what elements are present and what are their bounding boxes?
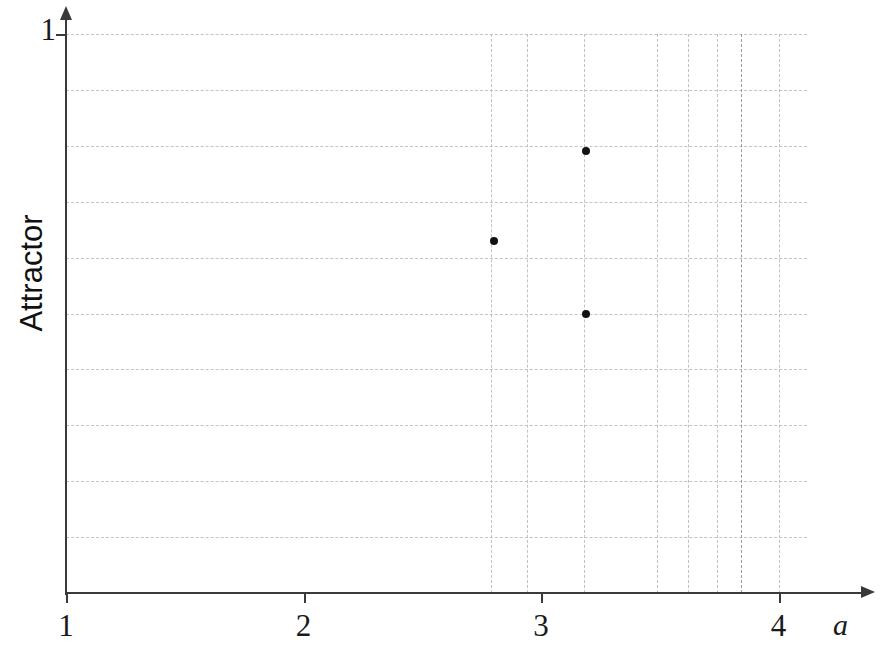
x-axis-tick xyxy=(541,592,543,603)
x-axis-tick-label: 4 xyxy=(749,608,809,644)
y-axis-arrowhead xyxy=(60,6,72,20)
gridline-horizontal xyxy=(66,34,807,35)
x-axis-arrowhead xyxy=(861,586,875,598)
gridline-horizontal xyxy=(66,537,807,538)
x-axis-tick xyxy=(304,592,306,603)
data-point xyxy=(582,310,590,318)
gridline-horizontal xyxy=(66,146,807,147)
gridline-vertical xyxy=(717,34,718,593)
x-axis-tick-label: 2 xyxy=(274,608,334,644)
plot-area xyxy=(66,34,807,593)
x-axis-line xyxy=(65,592,865,594)
gridline-vertical xyxy=(741,34,742,593)
gridline-horizontal xyxy=(66,481,807,482)
gridline-vertical xyxy=(688,34,689,593)
gridline-horizontal xyxy=(66,369,807,370)
x-axis-tick-label: 3 xyxy=(511,608,571,644)
data-point xyxy=(582,147,590,155)
y-axis-tick-label: 1 xyxy=(0,12,56,48)
gridline-horizontal xyxy=(66,425,807,426)
gridline-horizontal xyxy=(66,258,807,259)
gridline-horizontal xyxy=(66,90,807,91)
x-axis-label: a xyxy=(833,608,848,642)
y-axis-tick xyxy=(56,34,67,36)
x-axis-tick xyxy=(779,592,781,603)
gridline-vertical xyxy=(779,34,780,593)
gridline-vertical xyxy=(491,34,492,593)
x-axis-tick-label: 1 xyxy=(36,608,96,644)
data-point xyxy=(490,237,498,245)
gridline-horizontal xyxy=(66,314,807,315)
x-axis-tick xyxy=(66,592,68,603)
y-axis-label: Attractor xyxy=(14,133,50,413)
gridline-vertical xyxy=(527,34,528,593)
attractor-bifurcation-chart: 12341 Attractor a xyxy=(0,0,885,662)
y-axis-line xyxy=(65,18,67,595)
gridline-vertical xyxy=(657,34,658,593)
gridline-horizontal xyxy=(66,202,807,203)
